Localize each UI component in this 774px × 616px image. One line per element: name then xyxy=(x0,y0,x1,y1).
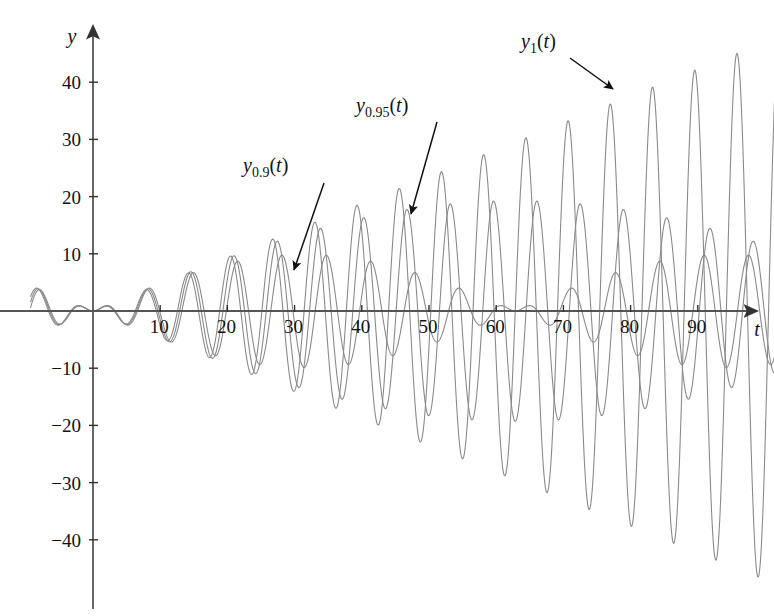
y-tick-label: 40 xyxy=(62,72,81,93)
label-y095-text: y0.95(t) xyxy=(354,94,408,120)
label-y1-arrow xyxy=(570,58,613,89)
x-tick-label: 50 xyxy=(419,316,438,337)
y-axis-label: y xyxy=(66,25,77,48)
x-tick-label: 20 xyxy=(217,316,236,337)
curve-y1 xyxy=(31,53,774,577)
y-tick-label: −20 xyxy=(51,415,81,436)
y-tick-label: −10 xyxy=(51,358,81,379)
x-tick-label: 40 xyxy=(351,316,370,337)
label-y09-text: y0.9(t) xyxy=(241,154,288,180)
label-y1: y1(t) xyxy=(519,30,613,89)
x-tick-label: 90 xyxy=(687,316,706,337)
label-y09: y0.9(t) xyxy=(241,154,324,270)
x-tick-group: 102030405060708090 xyxy=(150,305,707,337)
x-tick-label: 70 xyxy=(553,316,572,337)
figure-canvas: 102030405060708090 40302010−10−20−30−40 … xyxy=(0,0,774,616)
annotation-group: y0.9(t)y0.95(t)y1(t) xyxy=(241,30,613,270)
curve-group xyxy=(31,53,774,577)
y-tick-label: −40 xyxy=(51,530,81,551)
x-tick-label: 10 xyxy=(150,316,169,337)
oscillation-chart: 102030405060708090 40302010−10−20−30−40 … xyxy=(0,0,774,616)
label-y1-text: y1(t) xyxy=(519,30,556,56)
y-tick-label: −30 xyxy=(51,473,81,494)
y-tick-label: 30 xyxy=(62,129,81,150)
x-tick-label: 60 xyxy=(486,316,505,337)
label-y095: y0.95(t) xyxy=(354,94,437,214)
x-axis-label: t xyxy=(754,318,760,340)
x-tick-label: 80 xyxy=(620,316,639,337)
y-tick-label: 10 xyxy=(62,244,81,265)
x-tick-label: 30 xyxy=(284,316,303,337)
y-tick-label: 20 xyxy=(62,187,81,208)
label-y095-arrow xyxy=(411,122,437,214)
